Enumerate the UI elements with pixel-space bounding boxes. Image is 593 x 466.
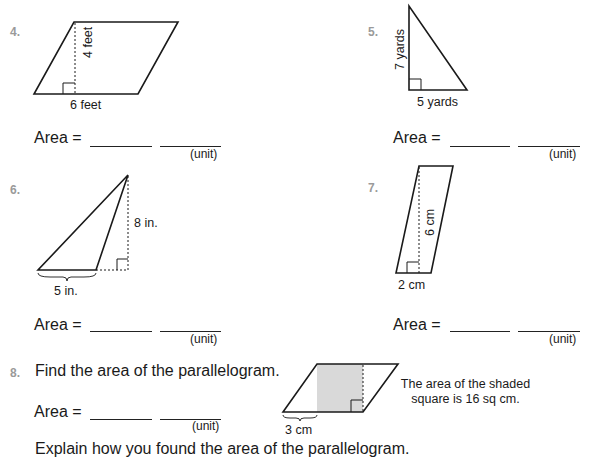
problem-4-area-answer-blank[interactable] <box>90 146 152 147</box>
problem-8-note-line-1: The area of the shaded <box>398 377 533 392</box>
problem-6-base-label: 5 in. <box>54 284 78 298</box>
problem-5-triangle <box>409 6 467 90</box>
problem-5-number: 5. <box>368 25 378 39</box>
problem-5-area-label: Area = <box>393 129 441 147</box>
problem-8-prompt: Find the area of the parallelogram. <box>35 362 280 380</box>
problem-4-parallelogram <box>34 22 178 94</box>
problem-8-area-answer-blank[interactable] <box>90 419 152 420</box>
problem-7-unit-label: (unit) <box>549 332 576 346</box>
problem-8-note-line-2: square is 16 sq cm. <box>398 392 533 407</box>
problem-8-note: The area of the shaded square is 16 sq c… <box>398 377 533 407</box>
problem-5-height-label: 7 yards <box>393 29 407 70</box>
problem-6-area-label: Area = <box>34 316 82 334</box>
problem-4-base-label: 6 feet <box>70 98 101 112</box>
problem-6-height-label: 8 in. <box>134 216 158 230</box>
problem-6-area-answer-blank[interactable] <box>90 331 152 332</box>
problem-4-area-label: Area = <box>34 129 82 147</box>
problem-4-height-label: 4 feet <box>81 27 95 58</box>
shaded-square <box>317 364 363 412</box>
problem-8-parallelogram <box>283 364 398 421</box>
problem-4-unit-label: (unit) <box>190 147 217 161</box>
problem-8-base-label: 3 cm <box>285 423 312 437</box>
problem-6-unit-label: (unit) <box>190 332 217 346</box>
problem-8-unit-label: (unit) <box>192 419 219 433</box>
problem-7-area-answer-blank[interactable] <box>450 331 510 332</box>
problem-8-area-label: Area = <box>34 403 82 421</box>
brace-icon <box>283 415 317 421</box>
problem-6-number: 6. <box>10 183 20 197</box>
brace-icon <box>38 273 96 281</box>
problem-8-number: 8. <box>10 366 20 380</box>
problem-5-base-label: 5 yards <box>417 95 458 109</box>
problem-7-area-label: Area = <box>393 316 441 334</box>
problem-6-triangle <box>38 175 128 281</box>
problem-8-explain-prompt: Explain how you found the area of the pa… <box>35 440 409 458</box>
problem-7-base-label: 2 cm <box>398 278 425 292</box>
problem-4-number: 4. <box>10 25 20 39</box>
problem-7-number: 7. <box>368 181 378 195</box>
problem-7-height-label: 6 cm <box>423 209 437 236</box>
problem-5-area-answer-blank[interactable] <box>450 146 510 147</box>
problem-5-unit-label: (unit) <box>549 147 576 161</box>
